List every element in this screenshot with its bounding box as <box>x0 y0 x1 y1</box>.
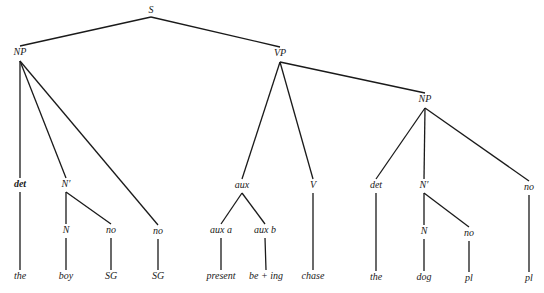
tree-edge-VP-NP2 <box>280 62 425 93</box>
tree-node-v: V <box>310 179 318 190</box>
tree-node-s: S <box>149 4 154 15</box>
syntax-tree-diagram: SNPVPNPdetN′noNnoauxVaux aaux bdetN′noNn… <box>0 0 544 293</box>
tree-node-np2: NP <box>418 93 432 104</box>
tree-node-nbar1: N′ <box>61 178 72 189</box>
tree-edge-NP1-no1 <box>20 61 158 225</box>
tree-edge-S-NP1 <box>20 17 151 46</box>
tree-node-no1: no <box>153 225 163 236</box>
leaf-word-w_present: present <box>205 270 235 281</box>
leaf-word-w_pl1: pl <box>464 272 473 283</box>
tree-edge-VP-aux <box>242 62 280 179</box>
leaf-word-w_being: be + ing <box>249 270 283 281</box>
tree-node-auxa: aux a <box>210 224 232 235</box>
tree-node-auxb: aux b <box>254 224 276 235</box>
tree-node-no4: no <box>464 227 474 238</box>
leaf-word-w_sg2: SG <box>152 270 164 281</box>
tree-edge-auxb-w_being <box>265 238 266 270</box>
tree-node-nbar2: N′ <box>419 179 430 190</box>
tree-node-aux: aux <box>235 179 250 190</box>
tree-node-det2: det <box>370 179 382 190</box>
leaf-word-w_chase: chase <box>302 270 325 281</box>
tree-node-vp: VP <box>274 47 286 58</box>
leaf-word-w_pl2: pl <box>524 272 533 283</box>
tree-edge-aux-auxb <box>242 193 265 224</box>
tree-edge-NP1-Nbar1 <box>20 61 66 178</box>
tree-node-n1: N <box>62 224 71 235</box>
leaf-word-w_dog: dog <box>417 271 432 282</box>
tree-node-det1: det <box>14 178 27 189</box>
tree-edge-Nbar1-no2 <box>66 192 111 224</box>
leaf-word-w_the1: the <box>14 270 27 281</box>
tree-node-n2: N <box>420 225 429 236</box>
tree-node-np1: NP <box>13 46 27 57</box>
tree-edge-NP2-Nbar2 <box>424 108 425 179</box>
tree-labels: SNPVPNPdetN′noNnoauxVaux aaux bdetN′noNn… <box>13 4 534 283</box>
tree-edge-NP2-no3 <box>425 108 529 181</box>
tree-edge-VP-V <box>280 62 313 179</box>
tree-edge-aux-auxa <box>221 193 242 224</box>
leaf-word-w_sg1: SG <box>105 270 117 281</box>
tree-edge-Nbar2-no4 <box>424 193 469 227</box>
tree-node-no2: no <box>106 224 116 235</box>
tree-edge-S-VP <box>151 17 280 47</box>
tree-edge-NP2-det2 <box>376 108 425 179</box>
tree-node-no3: no <box>524 181 534 192</box>
leaf-word-w_the2: the <box>370 271 383 282</box>
leaf-word-w_boy: boy <box>59 270 74 281</box>
